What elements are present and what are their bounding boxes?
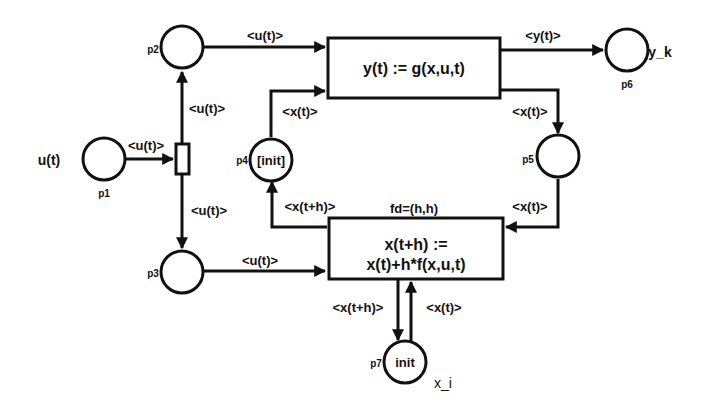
arc-label-state-p7: <x(t+h)> bbox=[333, 300, 384, 315]
place-p7-name: p7 bbox=[370, 358, 382, 369]
place-p1-external-label: u(t) bbox=[38, 152, 61, 168]
place-p4-token: [init] bbox=[257, 153, 285, 168]
petri-net-diagram: y(t) := g(x,u,t) x(t+h) := x(t)+h*f(x,u,… bbox=[0, 0, 723, 416]
place-p7-token: init bbox=[395, 355, 415, 370]
transition-state-annotation: fd=(h,h) bbox=[390, 201, 438, 216]
place-p3 bbox=[161, 251, 203, 293]
arc-label-output-p6: <y(t)> bbox=[525, 28, 561, 43]
place-p6 bbox=[606, 29, 648, 71]
arc-label-p3-state: <u(t)> bbox=[242, 253, 279, 268]
place-p1 bbox=[83, 138, 125, 180]
arc-label-state-p4: <x(t+h)> bbox=[285, 199, 336, 214]
arc-label-p1-split: <u(t)> bbox=[128, 138, 165, 153]
place-p6-name: p6 bbox=[621, 79, 633, 90]
place-p4-name: p4 bbox=[236, 155, 248, 166]
place-p5 bbox=[537, 135, 579, 177]
transition-split bbox=[176, 144, 189, 174]
arc-label-p4-output: <x(t)> bbox=[282, 104, 318, 119]
place-p1-name: p1 bbox=[98, 188, 110, 199]
place-p2-name: p2 bbox=[147, 44, 159, 55]
place-p7-external-label: x_i bbox=[434, 375, 452, 391]
transition-state-label-line2: x(t)+h*f(x,u,t) bbox=[366, 256, 465, 273]
place-p6-external-label: y_k bbox=[648, 44, 672, 60]
place-p3-name: p3 bbox=[147, 268, 159, 279]
place-p5-name: p5 bbox=[522, 154, 534, 165]
arc-label-output-p5: <x(t)> bbox=[512, 104, 548, 119]
arc-label-split-p3: <u(t)> bbox=[191, 203, 228, 218]
place-p2 bbox=[161, 26, 203, 68]
arc-label-split-p2: <u(t)> bbox=[189, 101, 226, 116]
transition-state-label-line1: x(t+h) := bbox=[384, 236, 447, 253]
arc-label-p7-state: <x(t)> bbox=[426, 300, 462, 315]
arc-label-p2-output: <u(t)> bbox=[247, 28, 284, 43]
transition-output-label: y(t) := g(x,u,t) bbox=[363, 60, 465, 77]
arc-label-p5-state: <x(t)> bbox=[512, 199, 548, 214]
